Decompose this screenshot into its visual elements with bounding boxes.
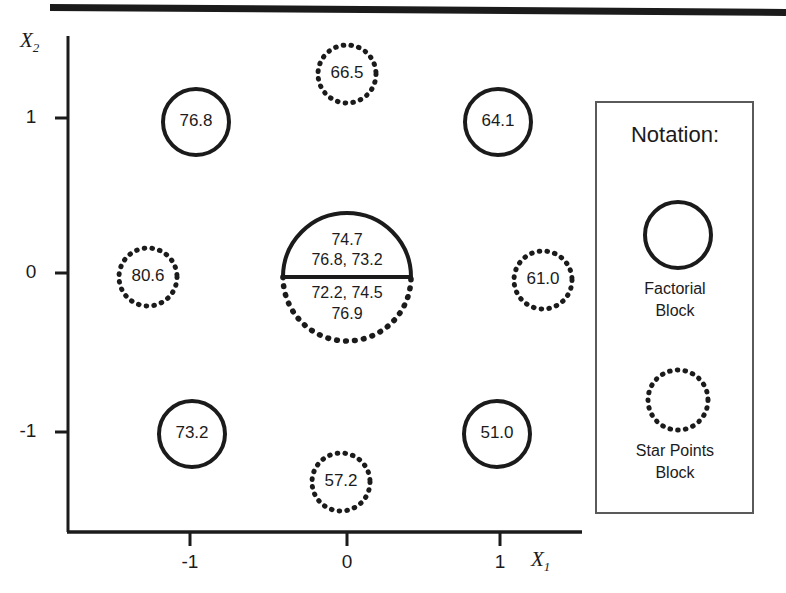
x-axis-label-sub: 1 bbox=[544, 559, 551, 574]
center-label-bottom-line1: 72.2, 74.5 bbox=[287, 284, 407, 303]
point-label-top-right-factorial: 64.1 bbox=[458, 111, 538, 130]
y-tick-label-1: 1 bbox=[16, 106, 46, 128]
y-tick-label-0: 0 bbox=[16, 261, 46, 283]
legend-entry-star-points-label: Star Points Block bbox=[600, 440, 750, 483]
legend-entry-factorial-line1: Factorial bbox=[600, 278, 750, 300]
x-axis-label-text: X bbox=[531, 547, 544, 571]
legend-entry-factorial-label: Factorial Block bbox=[600, 278, 750, 321]
y-tick-label-minus1: -1 bbox=[10, 420, 46, 442]
point-label-bottom-left-factorial: 73.2 bbox=[152, 423, 232, 442]
legend-entry-star-points-line2: Block bbox=[600, 462, 750, 484]
x-tick-label-1: 1 bbox=[480, 551, 520, 573]
center-label-bottom-line2: 76.9 bbox=[287, 305, 407, 324]
center-label-top-line2: 76.8, 73.2 bbox=[287, 251, 407, 270]
x-tick-label-minus1: -1 bbox=[170, 551, 210, 573]
legend-marker-factorial bbox=[645, 202, 711, 268]
legend-title: Notation: bbox=[601, 122, 749, 148]
x-tick-label-0: 0 bbox=[327, 551, 367, 573]
point-label-top-left-factorial: 76.8 bbox=[156, 111, 236, 130]
point-label-right-star: 61.0 bbox=[503, 269, 583, 288]
y-axis-label-sub: 2 bbox=[33, 40, 40, 55]
center-label-top-line1: 74.7 bbox=[287, 231, 407, 250]
y-axis-label: X2 bbox=[20, 28, 39, 56]
point-label-bottom-star: 57.2 bbox=[301, 471, 381, 490]
point-label-left-star: 80.6 bbox=[108, 266, 188, 285]
y-axis-label-text: X bbox=[20, 28, 33, 52]
design-of-experiments-figure: X2 X1 1 0 -1 -1 0 1 76.8 66.5 64.1 80.6 … bbox=[0, 0, 786, 593]
legend-entry-factorial-line2: Block bbox=[600, 300, 750, 322]
legend-marker-star-points bbox=[648, 370, 708, 430]
x-axis-label: X1 bbox=[531, 547, 550, 575]
legend-entry-star-points-line1: Star Points bbox=[600, 440, 750, 462]
point-label-bottom-right-factorial: 51.0 bbox=[457, 423, 537, 442]
point-label-top-star: 66.5 bbox=[307, 63, 387, 82]
